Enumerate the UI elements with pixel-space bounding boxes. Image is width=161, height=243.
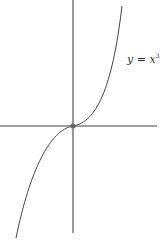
origin-point xyxy=(70,123,75,128)
exponent: 3 xyxy=(156,52,160,59)
function-label: y = x3 xyxy=(127,52,159,66)
cubic-graph xyxy=(0,0,161,243)
cubic-curve xyxy=(16,6,122,238)
